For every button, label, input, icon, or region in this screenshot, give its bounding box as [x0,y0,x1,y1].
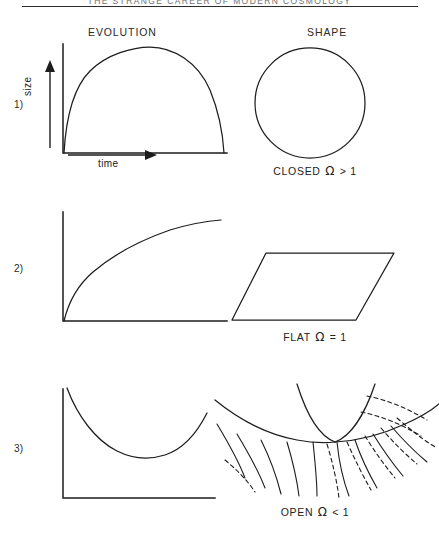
shape-caption-open: OPEN Ω < 1 [230,505,400,519]
shape-saddle-open [215,378,439,498]
caption-label-flat: FLAT [283,331,311,343]
saddle-rib-solid-5 [313,442,317,496]
axis-label-size: size [22,77,33,96]
circle-outline [255,48,365,158]
evolution-plot-closed [55,40,230,165]
parallelogram-outline [232,253,394,320]
row-number-2: 2) [14,263,24,274]
saddle-rib-dashed-8 [225,460,255,492]
curve-flat-universe [64,220,221,321]
row-number-1: 1) [14,99,24,110]
saddle-rib-dashed-4 [381,428,417,464]
saddle-rib-solid-6 [337,442,349,496]
column-heading-shape: SHAPE [307,26,347,38]
saddle-rim-right [335,404,439,442]
omega-symbol-closed: Ω [324,164,336,178]
header-rule [22,6,418,7]
plot-axes-open [63,389,215,498]
running-header: THE STRANGE CAREER OF MODERN COSMOLOGY [0,0,439,5]
caption-relation-flat: = 1 [330,331,347,343]
saddle-rib-dashed-5 [397,418,437,448]
omega-symbol-open: Ω [317,505,329,519]
saddle-rim-left [215,400,335,443]
shape-circle-closed [252,45,368,161]
shape-caption-flat: FLAT Ω = 1 [230,330,400,344]
axis-label-time: time [98,158,119,169]
shape-parallelogram-flat [228,248,398,326]
saddle-rib-dashed-6 [367,396,427,420]
saddle-rib-dashed-7 [361,412,421,436]
column-heading-evolution: EVOLUTION [88,26,157,38]
saddle-rib-solid-4 [287,442,299,496]
saddle-rib-dashed-1 [327,444,339,498]
evolution-plot-open [55,385,230,510]
caption-relation-open: < 1 [332,506,349,518]
curve-open-universe [67,388,207,458]
caption-relation-closed: > 1 [340,165,357,177]
plot-axes-flat [63,212,227,321]
omega-symbol-flat: Ω [314,330,326,344]
saddle-rib-dashed-2 [347,442,371,490]
caption-label-closed: CLOSED [273,165,320,177]
axis-arrow-size [43,60,57,148]
saddle-rib-dashed-3 [365,436,395,478]
shape-caption-closed: CLOSED Ω > 1 [230,164,400,178]
evolution-plot-flat [55,208,230,333]
saddle-rib-solid-2 [237,434,265,488]
plot-axes-closed [63,44,227,153]
caption-label-open: OPEN [281,506,314,518]
row-number-3: 3) [14,443,24,454]
saddle-rib-solid-1 [217,424,245,478]
curve-closed-universe [64,47,224,153]
